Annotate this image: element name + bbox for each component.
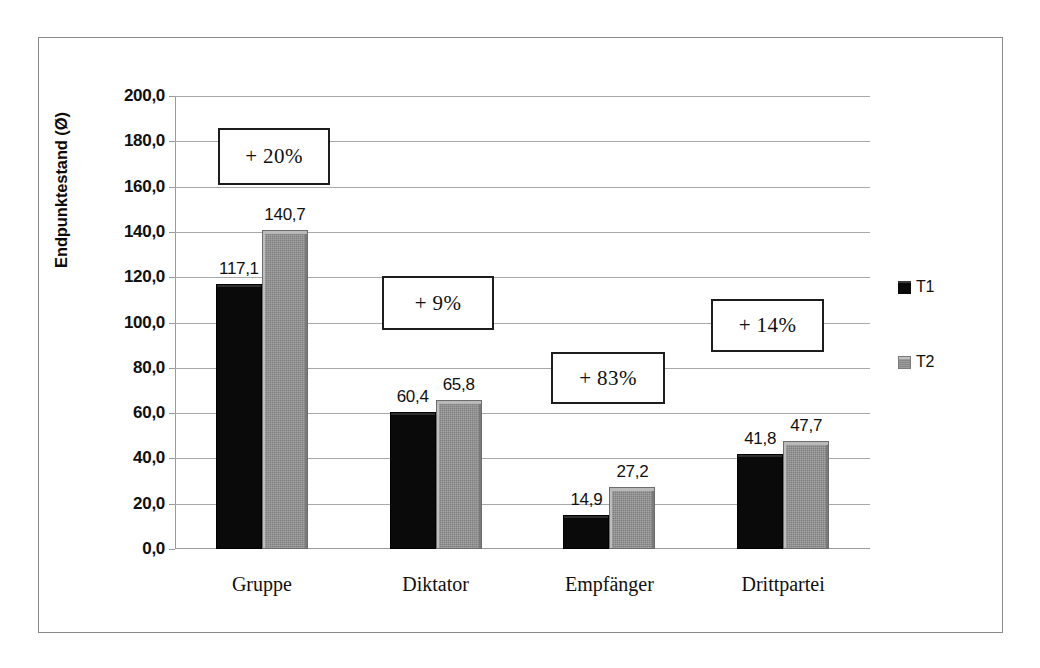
y-axis-title: Endpunktestand (Ø) (52, 48, 71, 268)
bar-value-label: 117,1 (219, 259, 259, 279)
y-axis-tick (169, 323, 175, 324)
annotation-box-0: + 20% (218, 128, 330, 185)
y-axis-tick (169, 141, 175, 142)
y-axis-tick (169, 232, 175, 233)
bar-t1-3 (737, 454, 783, 549)
category-label-2: Empfänger (565, 573, 654, 596)
legend-swatch-icon (898, 356, 911, 369)
y-axis-tick (169, 368, 175, 369)
y-axis-tick-label: 100,0 (81, 313, 165, 333)
y-axis-tick-label: 140,0 (81, 222, 165, 242)
legend-item-t2[interactable]: T2 (898, 353, 934, 371)
gridline (175, 187, 870, 188)
y-axis-tick (169, 413, 175, 414)
category-label-0: Gruppe (232, 573, 292, 596)
legend-label: T1 (916, 278, 934, 296)
annotation-box-2: + 83% (551, 352, 665, 404)
bar-value-label: 27,2 (616, 462, 648, 482)
gridline (175, 96, 870, 97)
bar-value-label: 47,7 (790, 416, 822, 436)
legend-swatch-icon (898, 281, 911, 294)
bar-value-label: 140,7 (264, 205, 305, 225)
bar-value-label: 65,8 (443, 375, 475, 395)
y-axis-tick-labels: 200,0180,0160,0140,0120,0100,080,060,040… (81, 96, 165, 549)
bar-t1-2 (563, 515, 609, 549)
bar-t1-1 (390, 412, 436, 549)
category-label-1: Diktator (402, 573, 469, 596)
y-axis-tick (169, 187, 175, 188)
y-axis-tick-label: 80,0 (81, 358, 165, 378)
bar-t1-0 (216, 284, 262, 549)
y-axis-tick-label: 200,0 (81, 86, 165, 106)
y-axis-tick-label: 60,0 (81, 403, 165, 423)
y-axis-tick (169, 96, 175, 97)
y-axis-tick (169, 277, 175, 278)
y-axis-tick-label: 160,0 (81, 177, 165, 197)
bar-t2-1 (436, 400, 482, 549)
bar-t2-2 (609, 487, 655, 549)
bar-value-label: 41,8 (744, 429, 776, 449)
legend-item-t1[interactable]: T1 (898, 278, 934, 296)
y-axis-tick-label: 120,0 (81, 267, 165, 287)
y-axis-tick (169, 504, 175, 505)
category-label-3: Drittpartei (741, 573, 824, 596)
y-axis-tick (169, 458, 175, 459)
annotation-box-1: + 9% (382, 276, 494, 330)
bar-t2-0 (262, 230, 308, 549)
legend-label: T2 (916, 353, 934, 371)
y-axis-tick (169, 549, 175, 550)
bar-value-label: 14,9 (570, 490, 602, 510)
bar-t2-3 (783, 441, 829, 549)
y-axis-tick-label: 0,0 (81, 539, 165, 559)
bar-value-label: 60,4 (397, 387, 429, 407)
y-axis-tick-label: 40,0 (81, 448, 165, 468)
y-axis-tick-label: 20,0 (81, 494, 165, 514)
y-axis-tick-label: 180,0 (81, 131, 165, 151)
annotation-box-3: + 14% (711, 299, 824, 352)
